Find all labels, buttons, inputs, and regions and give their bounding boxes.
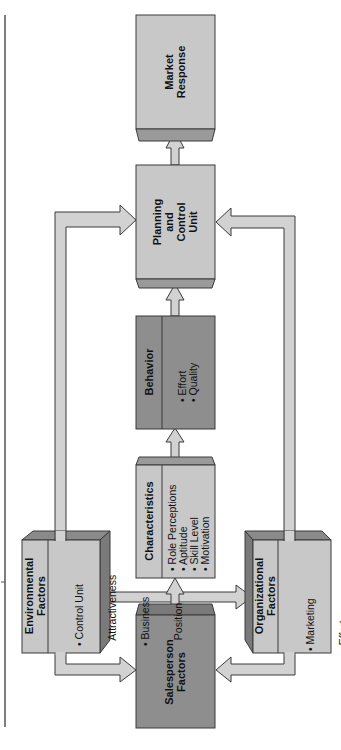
environmental-item: Attractiveness: [107, 546, 118, 646]
market-response-label: Market Response: [163, 22, 187, 122]
planning-control-label: Planning and Control Unit: [151, 172, 199, 272]
environmental-title: Environmental Factors: [23, 546, 47, 646]
behavior-items: • Effort • Quality: [177, 342, 199, 402]
environmental-item: • Control Unit: [74, 546, 85, 646]
organizational-items: • Marketing Effort • Sales Management Ef…: [283, 541, 327, 651]
characteristics-to-behavior-arrow: [166, 428, 184, 458]
env-to-planning-arrow: [55, 205, 136, 545]
org-to-planning-arrow: [216, 208, 295, 545]
environmental-item: • Business: [140, 546, 151, 646]
behavior-to-planning-arrow: [166, 284, 184, 316]
environmental-items: • Control Unit Attractiveness • Business…: [52, 546, 96, 646]
organizational-label-line2: Factors: [265, 546, 277, 646]
env-to-salesperson-arrow: [55, 653, 136, 682]
characteristics-item: • Motivation: [200, 471, 211, 571]
environmental-label-line2: Factors: [35, 546, 47, 646]
org-to-salesperson-arrow: [216, 653, 295, 682]
behavior-item: • Quality: [188, 342, 199, 402]
market-label-line1: Market: [163, 22, 175, 122]
organizational-item: • Marketing: [305, 541, 316, 651]
market-label-line2: Response: [175, 22, 187, 122]
environmental-label-line1: Environmental: [23, 546, 35, 646]
planning-label-line4: Unit: [187, 172, 199, 272]
planning-label-line3: Control: [175, 172, 187, 272]
planning-label-line1: Planning: [151, 172, 163, 272]
environmental-item: Position: [173, 546, 184, 646]
organizational-label-line1: Organizational: [253, 546, 265, 646]
organizational-title: Organizational Factors: [253, 546, 277, 646]
behavior-title: Behavior: [143, 322, 155, 422]
planning-label-line2: and: [163, 172, 175, 272]
